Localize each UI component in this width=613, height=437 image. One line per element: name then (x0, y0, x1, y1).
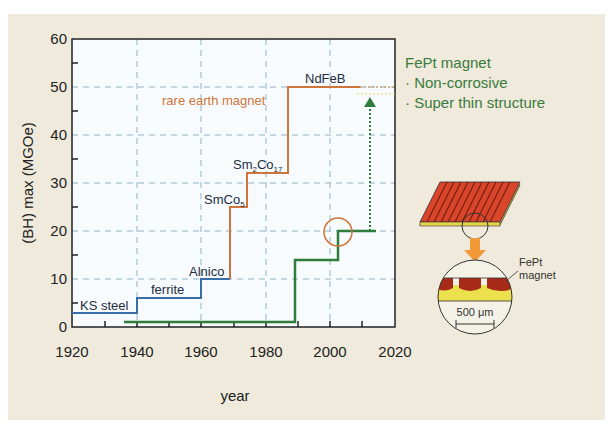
y-tick-0: 0 (59, 318, 67, 335)
diagram-label-fept: FePt (519, 256, 542, 268)
diagram-label-magnet: magnet (519, 269, 556, 281)
fept-bullet-1: · Non-corrosive (405, 74, 508, 91)
y-tick-10: 10 (50, 270, 67, 287)
label-ferrite: ferrite (151, 282, 184, 297)
x-tick-1940: 1940 (120, 343, 153, 360)
fept-magnified-view: 500 μm (435, 260, 515, 334)
y-tick-labels: 0 10 20 30 40 50 60 (50, 30, 67, 335)
callout-line (506, 271, 518, 281)
y-tick-30: 30 (50, 174, 67, 191)
fept-plate-illustration (420, 182, 520, 239)
label-smco5: SmCo5 (204, 192, 245, 209)
x-axis-title: year (220, 387, 249, 404)
magnify-arrow-icon (464, 238, 486, 262)
fept-title: FePt magnet (405, 54, 492, 71)
chart-svg: 0 10 20 30 40 50 60 1920 1940 1960 1980 … (0, 0, 613, 437)
x-tick-1920: 1920 (55, 343, 88, 360)
label-ndfeb: NdFeB (305, 71, 345, 86)
x-tick-2020: 2020 (378, 343, 411, 360)
y-tick-50: 50 (50, 78, 67, 95)
x-tick-1960: 1960 (184, 343, 217, 360)
fept-bullet-2: · Super thin structure (405, 94, 545, 111)
scale-label: 500 μm (457, 306, 494, 318)
x-tick-1980: 1980 (249, 343, 282, 360)
label-ks-steel: KS steel (80, 298, 129, 313)
y-axis-title: (BH) max (MGOe) (19, 122, 36, 244)
y-tick-40: 40 (50, 126, 67, 143)
label-rare-earth-magnet: rare earth magnet (162, 93, 266, 108)
x-tick-2000: 2000 (313, 343, 346, 360)
y-tick-20: 20 (50, 222, 67, 239)
y-tick-60: 60 (50, 30, 67, 47)
x-tick-labels: 1920 1940 1960 1980 2000 2020 (55, 343, 411, 360)
label-alnico: Alnico (189, 264, 224, 279)
